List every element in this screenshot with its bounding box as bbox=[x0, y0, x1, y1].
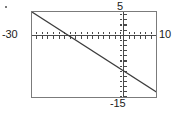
x-axis-min-label: -30 bbox=[2, 28, 17, 40]
x-axis-max-label: 10 bbox=[159, 28, 171, 40]
plotted-line bbox=[32, 12, 157, 98]
plot-frame bbox=[31, 11, 157, 98]
coordinate-plane-graph: 5 -30 10 -15 bbox=[0, 0, 172, 113]
speck-artifact bbox=[5, 6, 7, 8]
linear-function-segment bbox=[32, 12, 157, 93]
y-axis-min-label: -15 bbox=[110, 97, 125, 109]
